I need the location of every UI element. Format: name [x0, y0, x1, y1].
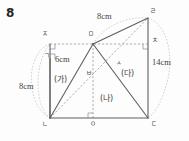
right-angle-mark-ch [143, 44, 148, 49]
right-arc-lower [148, 86, 166, 118]
dimension-label-upper-left: 6cm [55, 55, 70, 64]
dashed-diagonal-n-r [50, 18, 148, 118]
vertex-label-j: ㅈ [42, 31, 48, 38]
vertex-label-d: ㄷ [151, 121, 157, 128]
region-label-ga: (가) [54, 76, 67, 84]
region-label-da: (다) [121, 70, 134, 78]
vertex-label-g: ㄱ [44, 53, 50, 60]
vertex-label-m: ㅁ [88, 31, 94, 38]
vertex-label-b: ㅂ [86, 70, 92, 77]
dimension-label-top-edge: 8cm [97, 12, 112, 21]
page-title: 8 [6, 7, 14, 19]
right-angle-mark-j [50, 44, 55, 49]
right-arc-upper [148, 18, 170, 86]
vertex-dot-m [92, 43, 94, 45]
region-label-na: (나) [100, 95, 113, 103]
vertex-label-n: ㄴ [42, 121, 48, 128]
dimension-label-left-arc: 8cm [19, 82, 34, 91]
vertex-label-o: ㅇ [90, 121, 96, 128]
right-angle-mark-o [88, 113, 93, 118]
geometry-figure-container: 8 ㅈ ㅁ ㅊ ㄹ ㄴ ㅇ ㄷ ㅂ ㅅ ㄱ 8cm 14cm 6cm 8cm (… [0, 0, 189, 141]
vertex-label-r: ㄹ [150, 8, 156, 15]
dashed-line-group [50, 18, 148, 118]
dimension-label-right-edge: 14cm [152, 58, 171, 67]
edge-m-to-d [93, 44, 148, 118]
vertex-label-ch: ㅊ [152, 37, 158, 44]
vertex-label-s: ㅅ [116, 60, 122, 67]
